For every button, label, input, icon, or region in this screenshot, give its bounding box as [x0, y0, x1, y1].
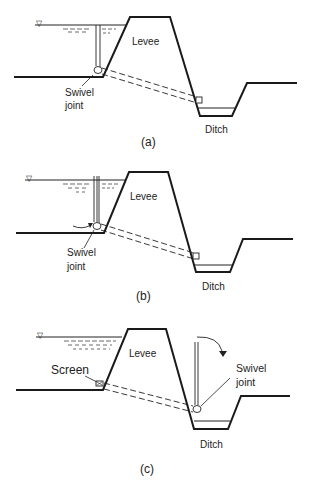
caption-c: (c) [140, 462, 154, 476]
swivel-joint-icon [94, 67, 102, 74]
label-ditch: Ditch [200, 439, 223, 450]
label-screen: Screen [51, 363, 89, 377]
label-ditch: Ditch [202, 281, 225, 292]
water-level-symbol: ▽ [37, 331, 44, 340]
label-levee: Levee [129, 348, 157, 359]
pipe-dashed [104, 383, 193, 412]
label-swivel: Swivel [236, 362, 266, 374]
panel-a: ▽ Levee Swivel joint Ditch (a) [14, 17, 297, 149]
water-ripples [63, 184, 118, 192]
water-level-symbol: ▽ [26, 174, 33, 183]
rotation-arrow-icon [73, 225, 91, 228]
rotation-arrow-icon [197, 337, 222, 351]
label-joint: joint [64, 100, 84, 111]
ground-profile [16, 172, 293, 272]
panel-b: ▽ Levee Swivel joint Ditch (b) [16, 172, 293, 303]
caption-a: (a) [141, 135, 156, 149]
label-levee: Levee [132, 36, 160, 47]
label-swivel: Swivel [65, 87, 94, 98]
label-levee: Levee [130, 191, 158, 202]
levee-siphon-diagram: ▽ Levee Swivel joint Ditch (a) [0, 0, 309, 491]
standpipe [195, 342, 198, 405]
pipe-dashed [102, 68, 197, 103]
label-joint: joint [235, 376, 255, 388]
swivel-joint-icon [93, 223, 101, 230]
swivel-leader [201, 378, 230, 406]
label-ditch: Ditch [205, 124, 228, 135]
swivel-joint-icon [193, 406, 201, 413]
caption-b: (b) [136, 289, 151, 303]
water-ripples [64, 341, 116, 349]
pipe-outlet [193, 253, 199, 259]
arrowhead-icon [219, 351, 227, 357]
label-swivel: Swivel [67, 247, 96, 258]
label-joint: joint [66, 261, 86, 272]
pipe-outlet [196, 97, 202, 103]
standpipe [94, 176, 99, 224]
water-level-symbol: ▽ [36, 19, 43, 28]
panel-c: ▽ Levee Screen Swivel joint Ditch (c) [16, 329, 290, 476]
standpipe [96, 25, 100, 68]
water-ripples [63, 29, 116, 33]
pipe-dashed [101, 224, 194, 259]
arrowhead-icon [88, 223, 93, 228]
ground-profile [14, 17, 297, 116]
